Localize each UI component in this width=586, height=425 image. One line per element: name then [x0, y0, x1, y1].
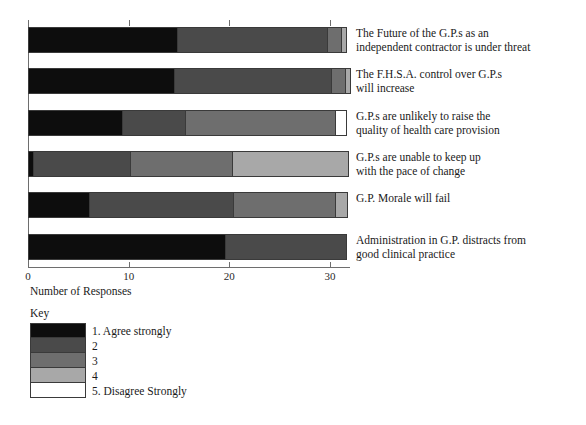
legend: Key 1. Agree strongly2345. Disagree Stro…: [30, 306, 270, 398]
stacked-bar: [28, 27, 347, 53]
legend-label: 1. Agree strongly: [92, 324, 172, 338]
legend-item: 4: [30, 368, 270, 383]
bar-segment: [29, 111, 123, 135]
bar-row: [28, 103, 350, 144]
stacked-bar: [28, 68, 351, 94]
bar-segment: [29, 28, 178, 52]
category-labels: The Future of the G.P.s as an independen…: [356, 20, 586, 268]
chart-figure: 0102030 The Future of the G.P.s as an in…: [0, 0, 586, 425]
category-label: Administration in G.P. distracts from go…: [356, 233, 586, 261]
category-label: G.P.s are unable to keep up with the pac…: [356, 150, 586, 178]
stacked-bar: [28, 192, 348, 218]
legend-title: Key: [30, 306, 270, 320]
legend-items: 1. Agree strongly2345. Disagree Strongly: [30, 323, 270, 398]
bar-segment: [225, 235, 346, 259]
bar-segment: [345, 69, 350, 93]
legend-swatch: [30, 323, 86, 338]
bar-segment: [29, 69, 175, 93]
category-label: The F.H.S.A. control over G.P.s will inc…: [356, 67, 586, 95]
category-label: G.P.s are unlikely to raise the quality …: [356, 109, 586, 137]
legend-item: 2: [30, 338, 270, 353]
bar-segment: [130, 152, 234, 176]
legend-label: 2: [92, 339, 98, 353]
legend-swatch: [30, 353, 86, 368]
bar-row: [28, 20, 350, 61]
category-label: The Future of the G.P.s as an independen…: [356, 26, 586, 54]
x-tick-label: 30: [324, 270, 335, 283]
legend-label: 4: [92, 369, 98, 383]
legend-swatch: [30, 338, 86, 353]
x-tick-label: 0: [25, 270, 31, 283]
bar-segment: [335, 111, 346, 135]
bar-segment: [341, 28, 346, 52]
stacked-bar: [28, 110, 347, 136]
bar-segment: [335, 193, 347, 217]
bar-group: [28, 20, 350, 268]
stacked-bar: [28, 234, 347, 260]
legend-item: 1. Agree strongly: [30, 323, 270, 338]
bar-segment: [29, 235, 226, 259]
bar-segment: [174, 69, 332, 93]
x-tick-label: 10: [123, 270, 134, 283]
bar-row: [28, 144, 350, 185]
bar-segment: [33, 152, 131, 176]
bar-segment: [327, 28, 342, 52]
legend-swatch: [30, 368, 86, 383]
x-tick-label: 20: [224, 270, 235, 283]
legend-item: 5. Disagree Strongly: [30, 383, 270, 398]
bar-segment: [89, 193, 234, 217]
bar-row: [28, 185, 350, 226]
legend-swatch: [30, 383, 86, 398]
bar-row: [28, 227, 350, 268]
bar-segment: [177, 28, 328, 52]
category-label: G.P. Morale will fail: [356, 191, 586, 205]
bar-row: [28, 61, 350, 102]
legend-label: 5. Disagree Strongly: [92, 384, 187, 398]
bar-segment: [185, 111, 336, 135]
stacked-bar: [28, 151, 349, 177]
bar-segment: [233, 193, 336, 217]
bar-segment: [232, 152, 348, 176]
legend-item: 3: [30, 353, 270, 368]
bar-segment: [122, 111, 186, 135]
legend-label: 3: [92, 354, 98, 368]
plot-area: 0102030: [28, 20, 350, 268]
bar-segment: [331, 69, 346, 93]
bar-segment: [29, 193, 90, 217]
x-axis-title: Number of Responses: [30, 284, 132, 298]
